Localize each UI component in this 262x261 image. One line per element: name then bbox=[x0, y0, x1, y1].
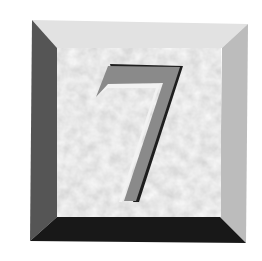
bevel-left bbox=[30, 20, 57, 241]
bevel-right bbox=[220, 24, 248, 243]
tile-graphic bbox=[0, 0, 262, 261]
bevel-bottom bbox=[30, 217, 246, 243]
bevel-top bbox=[32, 20, 248, 48]
